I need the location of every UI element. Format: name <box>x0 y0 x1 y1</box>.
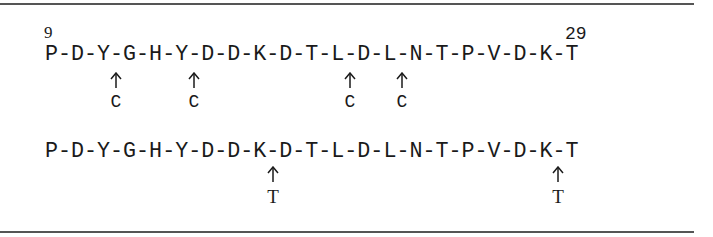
peptide-sequence: P-D-Y-G-H-Y-D-D-K-D-T-L-D-L-N-T-P-V-D-K-… <box>45 44 579 66</box>
start-position-label: 9 <box>44 24 53 41</box>
cleavage-label: C <box>184 93 204 111</box>
up-arrow-icon <box>109 72 123 88</box>
cleavage-label: T <box>548 188 568 206</box>
peptide-sequence: P-D-Y-G-H-Y-D-D-K-D-T-L-D-L-N-T-P-V-D-K-… <box>45 141 579 163</box>
up-arrow-icon <box>395 72 409 88</box>
up-arrow-icon <box>551 166 565 182</box>
cleavage-label: C <box>340 93 360 111</box>
cleavage-label: T <box>263 188 283 206</box>
up-arrow-icon <box>187 72 201 88</box>
up-arrow-icon <box>266 166 280 182</box>
top-rule <box>0 3 694 5</box>
end-position-label: 29 <box>565 26 587 43</box>
cleavage-label: C <box>392 93 412 111</box>
up-arrow-icon <box>343 72 357 88</box>
bottom-rule <box>0 231 694 233</box>
cleavage-label: C <box>106 93 126 111</box>
